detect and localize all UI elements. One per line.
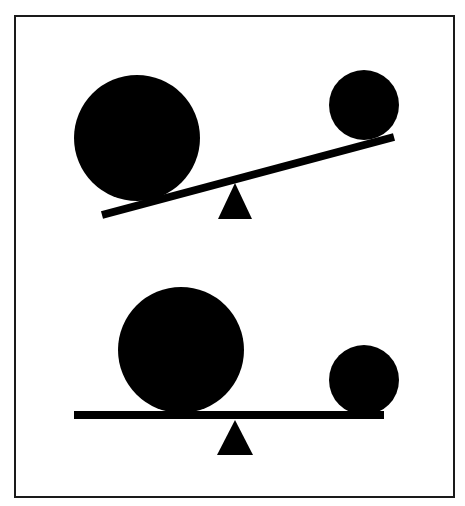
- small-ball: [329, 345, 399, 415]
- big-ball: [74, 75, 200, 201]
- small-ball: [329, 70, 399, 140]
- big-ball: [118, 287, 244, 413]
- seesaw-diagram: [0, 0, 465, 506]
